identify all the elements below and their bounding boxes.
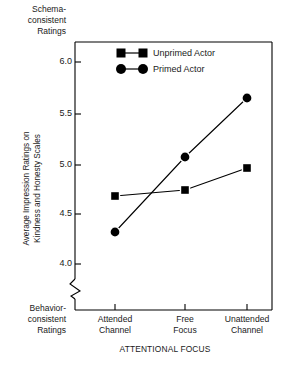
x-tick-label: Attended Channel <box>76 314 154 336</box>
chart-figure: Unprimed Actor Primed Actor Schema- cons… <box>0 0 285 367</box>
x-axis-tick-labels: Attended Channel Free Focus Unattended C… <box>0 0 285 367</box>
x-tick-label: Unattended Channel <box>208 314 285 336</box>
x-axis-title: ATTENTIONAL FOCUS <box>60 344 270 354</box>
